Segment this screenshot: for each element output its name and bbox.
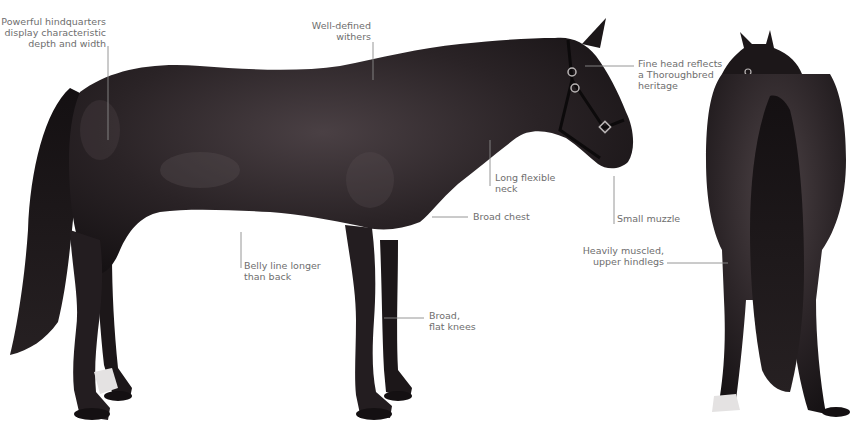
label-long-flexible-neck: Long flexible neck bbox=[495, 172, 555, 194]
label-belly-line: Belly line longer than back bbox=[244, 260, 321, 282]
label-fine-head: Fine head reflects a Thoroughbred herita… bbox=[638, 58, 722, 91]
label-broad-flat-knees: Broad, flat knees bbox=[429, 310, 476, 332]
label-hindquarters: Powerful hindquarters display characteri… bbox=[0, 16, 106, 49]
label-muscled-hindlegs: Heavily muscled, upper hindlegs bbox=[560, 245, 664, 267]
conformation-diagram: Powerful hindquarters display characteri… bbox=[0, 0, 860, 427]
side-view-horse bbox=[10, 18, 633, 420]
label-withers: Well-defined withers bbox=[290, 20, 371, 42]
rear-white-marking bbox=[712, 394, 740, 412]
label-small-muzzle: Small muzzle bbox=[617, 213, 680, 224]
horse-illustration bbox=[0, 0, 860, 427]
rear-view-horse bbox=[706, 30, 850, 417]
label-broad-chest: Broad chest bbox=[473, 211, 530, 222]
